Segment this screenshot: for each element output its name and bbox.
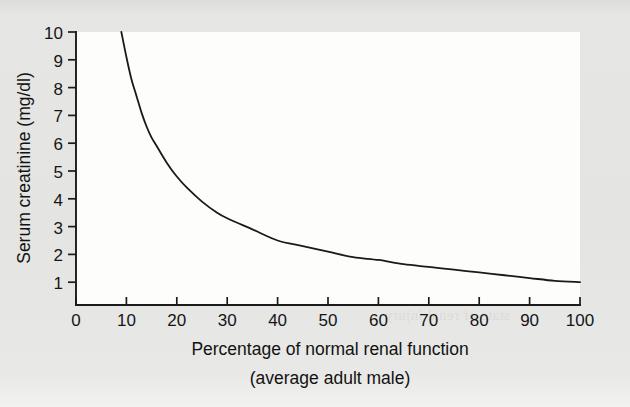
y-tick-label: 6 <box>54 135 63 154</box>
y-tick-label: 9 <box>54 52 63 71</box>
y-tick-label: 1 <box>54 274 63 293</box>
x-tick-label: 70 <box>419 311 438 330</box>
x-tick-label: 60 <box>369 311 388 330</box>
chart-svg: 10 9 8 7 6 5 4 3 2 1 0 10 20 30 40 50 60… <box>0 0 630 407</box>
x-tick-label: 80 <box>470 311 489 330</box>
y-tick-label: 5 <box>54 163 63 182</box>
x-tick-label: 100 <box>566 311 594 330</box>
renal-function-creatinine-chart: 10 9 8 7 6 5 4 3 2 1 0 10 20 30 40 50 60… <box>0 0 630 407</box>
y-tick-label: 3 <box>54 219 63 238</box>
serum-creatinine-curve <box>121 32 580 282</box>
x-tick-label: 30 <box>218 311 237 330</box>
x-tick-label: 40 <box>268 311 287 330</box>
y-axis-title: Serum creatinine (mg/dl) <box>14 72 34 264</box>
y-tick-label: 8 <box>54 80 63 99</box>
x-axis-title-line2: (average adult male) <box>250 368 411 388</box>
x-tick-label: 50 <box>319 311 338 330</box>
y-tick-labels: 10 9 8 7 6 5 4 3 2 1 <box>44 24 63 293</box>
x-tick-label: 10 <box>117 311 136 330</box>
x-tick-label: 20 <box>167 311 186 330</box>
y-tick-label: 4 <box>54 191 63 210</box>
x-tick-label: 0 <box>71 311 80 330</box>
x-tick-labels: 0 10 20 30 40 50 60 70 80 90 100 <box>71 311 594 330</box>
y-tick-label: 2 <box>54 246 63 265</box>
x-tick-label: 90 <box>520 311 539 330</box>
x-axis-title-line1: Percentage of normal renal function <box>191 339 468 359</box>
y-tick-label: 7 <box>54 107 63 126</box>
x-axis-ticks <box>76 297 580 305</box>
y-axis-ticks <box>68 32 76 282</box>
y-tick-label: 10 <box>44 24 63 43</box>
